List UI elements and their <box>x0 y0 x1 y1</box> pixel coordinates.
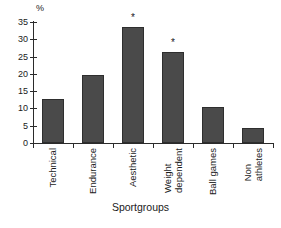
y-tick-label: 10 <box>18 104 28 113</box>
x-label-line: Endurance <box>88 148 99 194</box>
bar-ball-games <box>202 107 224 143</box>
x-tick-mark <box>273 143 274 148</box>
y-axis-unit-label: % <box>36 4 44 13</box>
x-axis-category-labels: TechnicalEnduranceAestheticWeightdepende… <box>33 148 273 200</box>
y-tick-label: 5 <box>23 121 28 130</box>
bar-technical <box>42 99 64 143</box>
bar-endurance <box>82 75 104 143</box>
y-tick-label: 15 <box>18 87 28 96</box>
x-label-line: Weight <box>163 148 174 193</box>
x-label-line: athletes <box>253 148 264 181</box>
x-label-line: Non <box>243 148 254 181</box>
caption-sliver <box>4 219 154 227</box>
y-tick-label: 0 <box>23 139 28 148</box>
y-tick-label: 35 <box>18 18 28 27</box>
bar-non-athletes <box>242 128 264 143</box>
x-label-line: Aesthetic <box>128 148 139 187</box>
y-tick-label: 20 <box>18 69 28 78</box>
bar-aesthetic <box>122 27 144 144</box>
y-tick-label: 25 <box>18 52 28 61</box>
bar-chart-figure: % 05101520253035 ** TechnicalEnduranceAe… <box>0 0 281 228</box>
y-tick-label: 30 <box>18 35 28 44</box>
significance-marker-weight-dependent: * <box>171 38 175 48</box>
x-label-line: Technical <box>48 148 59 188</box>
bar-weight-dependent <box>162 52 184 143</box>
x-label-line: Ball games <box>208 148 219 195</box>
x-label-line: dependent <box>173 148 184 193</box>
bars-layer: ** <box>33 22 273 143</box>
significance-marker-aesthetic: * <box>131 13 135 23</box>
x-axis-title: Sportgroups <box>0 201 281 213</box>
